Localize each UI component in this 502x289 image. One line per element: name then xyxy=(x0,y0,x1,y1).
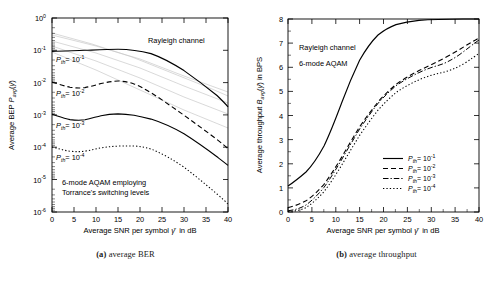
panel-average-ber: 100 10-1 10-2 10-3 10-4 10-5 10-6 05 101… xyxy=(0,0,251,289)
svg-text:4: 4 xyxy=(279,112,283,121)
caption-b-text: average throughput xyxy=(349,249,417,259)
throughput-x-tick-labels: 05 1015 2025 3035 40 xyxy=(286,215,483,224)
ber-x-axis-label: Average SNR per symbol γ̄ in dB xyxy=(84,226,197,235)
svg-text:Pth= 10-3: Pth= 10-3 xyxy=(408,173,436,184)
caption-b-tag: (b) xyxy=(336,249,347,259)
ber-rayleigh-note: Rayleigh channel xyxy=(148,36,205,45)
svg-text:30: 30 xyxy=(427,215,435,224)
svg-text:20: 20 xyxy=(136,215,144,224)
svg-text:0: 0 xyxy=(279,208,283,217)
svg-text:Pth= 10-1: Pth= 10-1 xyxy=(408,153,436,164)
svg-text:7: 7 xyxy=(279,39,283,48)
ber-x-tick-labels: 05 1015 2025 3035 40 xyxy=(50,215,232,224)
svg-text:10: 10 xyxy=(332,215,340,224)
svg-text:Pth= 10-2: Pth= 10-2 xyxy=(56,88,85,99)
svg-text:Pth= 10-3: Pth= 10-3 xyxy=(56,120,85,131)
svg-text:10: 10 xyxy=(92,215,100,224)
svg-text:Pth= 10-1: Pth= 10-1 xyxy=(56,54,85,65)
svg-text:1: 1 xyxy=(279,184,283,193)
svg-text:20: 20 xyxy=(379,215,387,224)
svg-text:10-6: 10-6 xyxy=(33,207,46,217)
throughput-rayleigh-note: Rayleigh channel xyxy=(299,43,356,52)
svg-text:6: 6 xyxy=(279,63,283,72)
svg-text:5: 5 xyxy=(310,215,314,224)
caption-panel-a: (a) average BER xyxy=(0,249,251,259)
svg-text:35: 35 xyxy=(451,215,459,224)
figure-container: 100 10-1 10-2 10-3 10-4 10-5 10-6 05 101… xyxy=(0,0,502,289)
svg-text:40: 40 xyxy=(224,215,232,224)
throughput-legend: Pth= 10-1 Pth= 10-2 Pth= 10-3 Pth= 10-4 xyxy=(383,153,436,194)
caption-panel-b: (b) average throughput xyxy=(251,249,502,259)
svg-text:Pth= 10-4: Pth= 10-4 xyxy=(408,183,436,194)
svg-text:5: 5 xyxy=(279,87,283,96)
throughput-aqam-note: 6-mode AQAM xyxy=(299,59,347,68)
throughput-y-tick-labels: 01 23 45 67 8 xyxy=(279,15,283,217)
caption-a-tag: (a) xyxy=(96,249,106,259)
ber-y-axis-label: Average BEP Pavg(γ̄) xyxy=(7,80,17,150)
svg-text:30: 30 xyxy=(180,215,188,224)
svg-text:10-1: 10-1 xyxy=(33,45,46,55)
svg-text:40: 40 xyxy=(475,215,483,224)
svg-text:5: 5 xyxy=(72,215,76,224)
svg-text:100: 100 xyxy=(35,13,46,23)
ber-curve-labels: Pth= 10-1 Pth= 10-2 Pth= 10-3 Pth= 10-4 xyxy=(56,54,85,163)
svg-text:35: 35 xyxy=(202,215,210,224)
ber-aqam-note-line2: Torrance's switching levels xyxy=(62,188,150,197)
background-mode-curves xyxy=(52,33,228,128)
svg-text:0: 0 xyxy=(50,215,54,224)
svg-text:2: 2 xyxy=(279,160,283,169)
ber-y-tick-labels: 100 10-1 10-2 10-3 10-4 10-5 10-6 xyxy=(33,13,46,217)
svg-text:10-5: 10-5 xyxy=(33,174,46,184)
svg-text:3: 3 xyxy=(279,136,283,145)
svg-text:0: 0 xyxy=(286,215,290,224)
ber-aqam-note-line1: 6-mode AQAM employing xyxy=(62,178,146,187)
throughput-plot-svg: 01 23 45 67 8 05 1015 2025 3035 40 Avera… xyxy=(251,0,502,245)
svg-text:Pth= 10-2: Pth= 10-2 xyxy=(408,163,436,174)
svg-text:10-3: 10-3 xyxy=(33,110,46,120)
svg-text:8: 8 xyxy=(279,15,283,24)
panel-average-throughput: 01 23 45 67 8 05 1015 2025 3035 40 Avera… xyxy=(251,0,502,289)
svg-text:Pth= 10-4: Pth= 10-4 xyxy=(56,152,85,163)
throughput-x-axis-label: Average SNR per symbol γ̄ in dB xyxy=(327,226,440,235)
ber-plot-svg: 100 10-1 10-2 10-3 10-4 10-5 10-6 05 101… xyxy=(0,0,251,245)
svg-text:15: 15 xyxy=(355,215,363,224)
svg-text:25: 25 xyxy=(158,215,166,224)
svg-text:10-2: 10-2 xyxy=(33,77,46,87)
svg-text:10-4: 10-4 xyxy=(33,142,46,152)
caption-a-text: average BER xyxy=(109,249,155,259)
svg-text:15: 15 xyxy=(114,215,122,224)
throughput-y-axis-label: Average throughput Bavg(γ̄) in BPS xyxy=(255,57,265,173)
svg-text:25: 25 xyxy=(403,215,411,224)
curve-pth-1e-4 xyxy=(288,53,479,211)
